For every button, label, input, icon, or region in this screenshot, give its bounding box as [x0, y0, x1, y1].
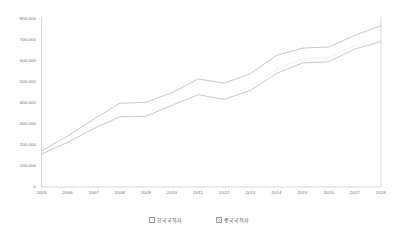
x-tick-label: 2015 — [297, 190, 308, 195]
y-axis-tick-labels: 800,000 700,000 600,000 500,000 400,000 … — [20, 16, 37, 190]
chart-legend: 한국국적자 중국국적자 — [0, 216, 397, 223]
x-tick-label: 2016 — [324, 190, 335, 195]
x-axis-tick-labels: 2005 2006 2007 2008 2009 2010 2011 2012 … — [36, 190, 386, 195]
legend-item-chinese[interactable]: 중국국적자 — [216, 216, 249, 223]
y-tick-label: 300,000 — [20, 121, 37, 126]
chart-plot-area: 800,000 700,000 600,000 500,000 400,000 … — [0, 0, 397, 228]
legend-item-korean[interactable]: 한국국적자 — [149, 216, 182, 223]
x-tick-label: 2005 — [36, 190, 47, 195]
x-tick-label: 2007 — [89, 190, 100, 195]
x-tick-label: 2010 — [167, 190, 178, 195]
y-tick-label: 800,000 — [20, 16, 37, 21]
y-tick-label: 700,000 — [20, 37, 37, 42]
x-tick-label: 2009 — [141, 190, 152, 195]
series-line-total — [42, 26, 381, 151]
x-tick-label: 2013 — [245, 190, 256, 195]
y-tick-label: 400,000 — [20, 100, 37, 105]
chart-container: 800,000 700,000 600,000 500,000 400,000 … — [0, 0, 397, 228]
legend-swatch-korean-icon — [149, 217, 155, 223]
x-tick-label: 2008 — [115, 190, 126, 195]
legend-label-chinese: 중국국적자 — [224, 216, 249, 223]
x-tick-label: 2017 — [350, 190, 361, 195]
series-band-chinese — [42, 37, 381, 150]
y-tick-label: 600,000 — [20, 58, 37, 63]
y-tick-label: 200,000 — [20, 142, 37, 147]
x-tick-label: 2011 — [193, 190, 203, 195]
legend-label-korean: 한국국적자 — [157, 216, 182, 223]
x-tick-label: 2018 — [376, 190, 387, 195]
x-tick-label: 2014 — [271, 190, 282, 195]
series-line-korean — [42, 42, 381, 154]
x-tick-label: 2012 — [219, 190, 230, 195]
x-tick-label: 2006 — [63, 190, 74, 195]
y-tick-label: 100,000 — [20, 163, 37, 168]
y-tick-label: 0 — [34, 184, 37, 189]
y-tick-label: 500,000 — [20, 79, 37, 84]
legend-swatch-chinese-icon — [216, 217, 222, 223]
